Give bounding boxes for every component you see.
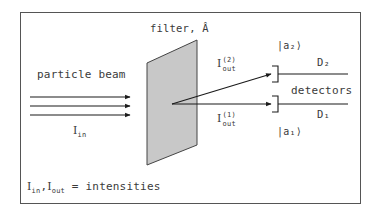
state-a1-label: |a₁⟩ [277, 126, 302, 137]
filter-label: filter, Â [150, 22, 209, 34]
state-a2-label: |a₂⟩ [277, 40, 302, 51]
detectors-label: detectors [291, 84, 352, 97]
detector-d1-label: D₁ [317, 108, 330, 120]
output-intensity-1-label: I(1)out [217, 112, 236, 130]
output-intensity-2-label: I(2)out [217, 57, 236, 75]
detector-d2 [272, 66, 348, 82]
detector-d2-label: D₂ [317, 56, 330, 68]
input-intensity-label: Iin [73, 124, 86, 137]
detector-d1 [272, 96, 348, 112]
filter-panel [147, 40, 197, 165]
intensities-legend: Iin,Iout = intensities [27, 180, 161, 193]
incoming-beam-arrows [30, 97, 130, 115]
particle-beam-label: particle beam [37, 68, 126, 81]
